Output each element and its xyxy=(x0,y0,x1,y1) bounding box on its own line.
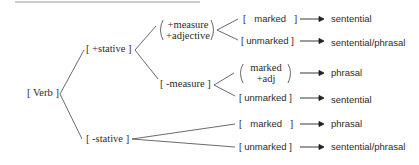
result-phrasal-1: phrasal xyxy=(331,68,362,78)
right-arrow-icon xyxy=(300,17,324,22)
node-measure-adjective: +measure +adjective xyxy=(166,19,210,41)
edge-measure-adj-unmarked xyxy=(217,30,238,40)
node-verb: [ Verb ] xyxy=(27,88,59,99)
edge-stative-measure-adj xyxy=(135,26,156,50)
verb-classification-diagram: [ Verb ] [ +stative ] [ -stative ] +meas… xyxy=(0,0,419,165)
feature-plus-adj: +adj xyxy=(245,73,287,84)
feature-plus-adjective: +adjective xyxy=(166,30,210,41)
open-paren xyxy=(161,20,164,40)
right-arrow-icon xyxy=(300,96,324,101)
right-arrow-icon xyxy=(300,39,324,44)
edge-measure-adj-marked xyxy=(217,19,238,30)
leaf-unmarked-2: [ unmarked ] xyxy=(239,93,292,103)
result-phrasal-2: phrasal xyxy=(331,119,362,129)
right-arrow-icon xyxy=(300,71,324,76)
result-sentential-phrasal-2: sentential/phrasal xyxy=(331,142,405,152)
close-paren xyxy=(288,64,291,83)
edge-nonmeasure-unmarked xyxy=(214,85,235,96)
result-sentential-phrasal-1: sentential/phrasal xyxy=(331,38,405,48)
leaf-marked-1: [ marked ] xyxy=(243,14,297,24)
result-sentential-1: sentential xyxy=(331,14,372,24)
node-minus-stative: [ -stative ] xyxy=(86,134,129,145)
feature-plus-measure: +measure xyxy=(166,19,210,30)
leaf-marked-adj: marked +adj xyxy=(245,62,287,84)
open-paren xyxy=(241,64,244,83)
node-minus-measure: [ -measure ] xyxy=(160,79,211,90)
leaf-marked-3: [ marked ] xyxy=(239,119,293,129)
close-paren xyxy=(211,20,214,40)
edge-stative-nonmeasure xyxy=(135,50,158,79)
feature-marked: marked xyxy=(245,62,287,73)
result-sentential-2: sentential xyxy=(331,95,372,105)
right-arrow-icon xyxy=(300,145,324,150)
edge-nonmeasure-marked-adj xyxy=(214,73,234,85)
leaf-unmarked-3: [ unmarked ] xyxy=(239,142,292,152)
node-plus-stative: [ +stative ] xyxy=(86,44,132,55)
edge-nonstative-marked xyxy=(132,124,235,139)
leaf-unmarked-1: [ unmarked ] xyxy=(241,36,294,46)
right-arrow-icon xyxy=(300,122,324,127)
edge-verb-nonstative xyxy=(60,94,82,139)
edge-nonstative-unmarked xyxy=(132,139,235,147)
edge-verb-stative xyxy=(60,50,84,94)
